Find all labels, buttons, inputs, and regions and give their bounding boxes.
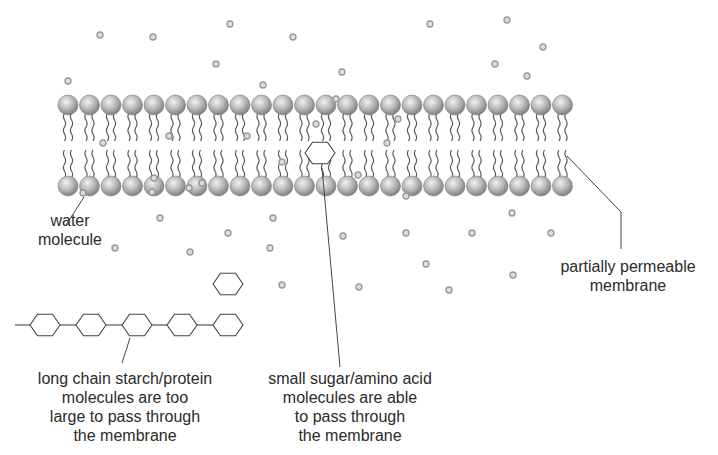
lipid-tail (113, 150, 115, 178)
phospholipid-head (187, 95, 207, 115)
lipid-tail (436, 150, 438, 178)
water-molecule-icon (427, 21, 433, 27)
lipid-tail (536, 113, 538, 141)
water-molecule-icon (186, 185, 192, 191)
lipid-tail (386, 150, 388, 178)
lipid-tail (500, 150, 502, 178)
water-molecule-icon (384, 140, 390, 146)
lipid-tail (156, 150, 158, 178)
lipid-tail (135, 113, 137, 141)
lipid-tail (343, 150, 345, 178)
lipid-tail (543, 150, 545, 178)
lipid-tail (350, 150, 352, 178)
lipid-tail (199, 113, 201, 141)
lipid-tail (321, 113, 323, 141)
phospholipid-head (338, 176, 358, 196)
phospholipid-head (488, 176, 508, 196)
phospholipid-head (531, 95, 551, 115)
lipid-tail (285, 150, 287, 178)
water-molecule-icon (313, 121, 319, 127)
phospholipid-head (488, 95, 508, 115)
lipid-tail (472, 150, 474, 178)
phospholipid-head (445, 95, 465, 115)
water-molecule-icon (270, 215, 276, 221)
phospholipid-head (230, 95, 250, 115)
lipid-tail (214, 150, 216, 178)
lipid-tail (328, 113, 330, 141)
lipid-tail (515, 113, 517, 141)
lipid-tail (450, 150, 452, 178)
lipid-tail (300, 113, 302, 141)
water-molecule-icon (187, 249, 193, 255)
label-line: the membrane (255, 426, 445, 445)
phospholipid-head (273, 95, 293, 115)
lipid-tail (472, 113, 474, 141)
label-line: small sugar/amino acid (255, 369, 445, 388)
lipid-tail (70, 150, 72, 178)
phospholipid-head (316, 176, 336, 196)
starch-unit-hexagon (213, 314, 243, 335)
lipid-tail (128, 150, 130, 178)
lipid-tail (350, 113, 352, 141)
starch-molecule-label: long chain starch/protein molecules are … (0, 369, 250, 445)
lipid-tail (450, 113, 452, 141)
sugar-molecule-label: small sugar/amino acid molecules are abl… (255, 369, 445, 445)
lipid-tail (429, 113, 431, 141)
phospholipid-head (467, 176, 487, 196)
lipid-tail (522, 150, 524, 178)
phospholipid-head (252, 95, 272, 115)
lipid-tail (429, 150, 431, 178)
lipid-tail (156, 113, 158, 141)
phospholipid-head (424, 176, 444, 196)
lipid-tail (221, 150, 223, 178)
phospholipid-head (123, 176, 143, 196)
lipid-tail (414, 113, 416, 141)
phospholipid-head (359, 95, 379, 115)
phospholipid-head (58, 176, 78, 196)
phospholipid-head (338, 95, 358, 115)
water-molecule-icon (509, 210, 515, 216)
lipid-tail (63, 150, 65, 178)
lipid-tail (558, 113, 560, 141)
lipid-tail (371, 150, 373, 178)
water-molecule-icon (446, 287, 452, 293)
starch-unit-hexagon (167, 314, 197, 335)
phospholipid-head (230, 176, 250, 196)
water-molecule-icon (510, 272, 516, 278)
phospholipid-head (209, 176, 229, 196)
phospholipid-head (101, 176, 121, 196)
sugar-molecule-hexagon (213, 273, 243, 294)
lipid-tail (407, 150, 409, 178)
lipid-tail (536, 150, 538, 178)
lipid-tail (364, 113, 366, 141)
phospholipid-head (58, 95, 78, 115)
water-molecule-icon (356, 284, 362, 290)
lipid-tail (371, 113, 373, 141)
lipid-tail (128, 113, 130, 141)
water-molecule-icon (100, 140, 106, 146)
lipid-tail (149, 150, 151, 178)
water-molecule-icon (65, 78, 71, 84)
lipid-tail (135, 150, 137, 178)
lipid-tail (278, 113, 280, 141)
water-molecule-icon (157, 215, 163, 221)
label-line: partially permeable (548, 257, 708, 276)
phospholipid-head (445, 176, 465, 196)
water-molecule-icon (199, 180, 205, 186)
water-molecule-icon (548, 230, 554, 236)
water-molecule-icon (524, 73, 530, 79)
phospholipid-head (467, 95, 487, 115)
water-molecule-icon (267, 245, 273, 251)
water-molecule-icon (395, 116, 401, 122)
membrane-label: partially permeable membrane (548, 257, 708, 295)
phospholipid-head (166, 95, 186, 115)
phospholipid-head (273, 176, 293, 196)
lipid-tail (500, 113, 502, 141)
water-molecule-icon (213, 61, 219, 67)
lipid-tail (106, 150, 108, 178)
lipid-tail (63, 113, 65, 141)
phospholipid-head (553, 95, 573, 115)
label-line: long chain starch/protein (0, 369, 250, 388)
water-molecule-icon (227, 21, 233, 27)
label-line: large to pass through (0, 407, 250, 426)
